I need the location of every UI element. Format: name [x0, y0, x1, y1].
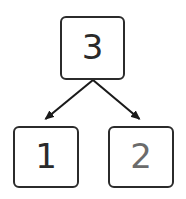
tree-node-right-child-label: 2	[130, 139, 152, 173]
edge-root-to-left	[46, 80, 94, 119]
tree-node-root-label: 3	[82, 30, 104, 64]
tree-node-left-child-label: 1	[35, 139, 57, 173]
tree-node-right-child[interactable]: 2	[108, 126, 174, 188]
edge-root-to-right	[93, 80, 140, 119]
tree-node-left-child[interactable]: 1	[13, 126, 79, 188]
diagram-canvas: 3 1 2	[0, 0, 186, 199]
tree-node-root[interactable]: 3	[60, 16, 125, 80]
